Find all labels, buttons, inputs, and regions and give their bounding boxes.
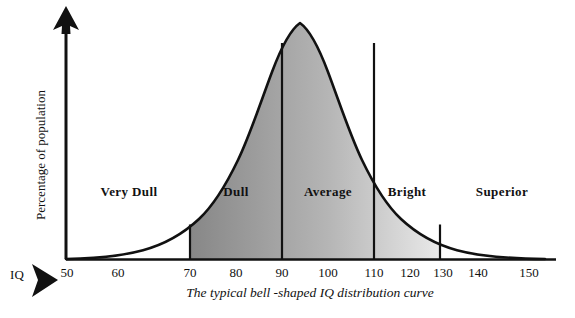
bell-curve-chart: Percentage of population IQ Very Dull Du… bbox=[0, 0, 575, 318]
x-tick-130: 130 bbox=[433, 265, 453, 280]
x-tick-90: 90 bbox=[276, 265, 289, 280]
iq-distribution-figure: Percentage of population IQ Very Dull Du… bbox=[0, 0, 575, 318]
x-tick-80: 80 bbox=[230, 265, 243, 280]
figure-caption: The typical bell -shaped IQ distribution… bbox=[186, 285, 433, 300]
band-label-average: Average bbox=[304, 184, 352, 199]
band-label-bright: Bright bbox=[388, 184, 427, 199]
x-tick-50: 50 bbox=[61, 265, 74, 280]
arrow-up-icon bbox=[53, 6, 79, 34]
band-label-dull: Dull bbox=[223, 184, 248, 199]
x-tick-150: 150 bbox=[519, 265, 539, 280]
x-tick-120: 120 bbox=[400, 265, 420, 280]
shaded-distribution-area bbox=[190, 18, 440, 259]
x-tick-60: 60 bbox=[112, 265, 125, 280]
band-label-very-dull: Very Dull bbox=[101, 184, 158, 199]
x-tick-100: 100 bbox=[318, 265, 338, 280]
band-label-superior: Superior bbox=[476, 184, 528, 199]
x-axis-title: IQ bbox=[10, 267, 25, 282]
chevron-right-icon bbox=[32, 264, 58, 297]
y-axis-title: Percentage of population bbox=[33, 90, 48, 220]
x-tick-140: 140 bbox=[468, 265, 488, 280]
x-tick-110: 110 bbox=[364, 265, 383, 280]
x-tick-70: 70 bbox=[184, 265, 197, 280]
